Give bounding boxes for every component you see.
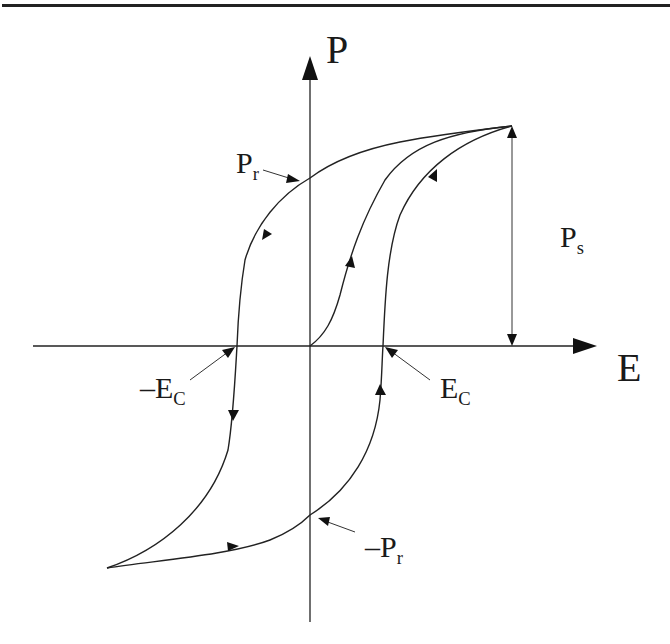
hysteresis-diagram [0,0,670,644]
ps-arrow-down-icon [507,334,517,346]
neg-ec-label-main: –E [140,371,173,404]
e-axis-label: E [617,348,641,388]
neg-pr-label: –Pr [365,532,403,567]
arrow-descending-upper-icon [262,229,272,240]
neg-ec-label: –EC [140,373,186,408]
arrow-ascending-lower-icon [375,384,386,395]
pr-label-main: P [236,146,253,179]
ps-label: Ps [560,222,584,257]
ps-label-main: P [560,220,577,253]
pr-label-sub: r [253,163,259,184]
p-axis-arrow-icon [302,56,318,80]
neg-pr-label-sub: r [397,547,403,568]
direction-arrows [227,169,437,551]
p-axis-label: P [326,30,348,70]
ec-pointer-icon [385,347,398,358]
e-axis-arrow-icon [573,338,597,354]
ps-arrow-up-icon [507,126,517,138]
pr-pointer-icon [286,174,300,183]
initial-curve [310,126,512,346]
arrow-descending-lower-icon [228,410,239,421]
neg-ec-pointer-icon [222,347,235,358]
neg-pr-label-main: –P [365,530,397,563]
pr-label: Pr [236,148,259,183]
neg-pr-pointer-icon [318,517,330,526]
ps-label-sub: s [577,237,584,258]
ec-label-sub: C [458,388,470,409]
ec-label-main: E [440,371,458,404]
top-border [2,4,670,7]
neg-ec-label-sub: C [173,388,185,409]
ec-label: EC [440,373,471,408]
